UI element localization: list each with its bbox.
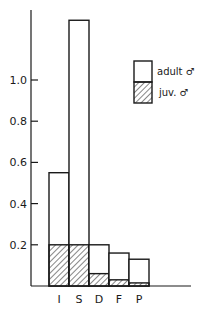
y-tick-label: 0.4 [10,198,28,211]
bar-juv-S [69,245,89,286]
legend: adult ♂ juv. ♂ [134,61,195,103]
legend-adult-label: adult ♂ [157,66,195,77]
bar-juv-F [109,280,129,286]
bar-adult-P [129,259,149,286]
x-category-label: F [116,293,122,306]
legend-juv-label: juv. ♂ [158,87,189,98]
x-category-label: D [95,293,103,306]
bar-juv-P [129,283,149,286]
x-category-label: P [136,293,143,306]
legend-adult-swatch [134,61,152,82]
y-tick-label: 0.2 [10,239,28,252]
y-tick-label: 1.0 [10,74,28,87]
x-category-label: S [76,293,83,306]
x-category-label: I [57,293,60,306]
y-tick-label: 0.6 [10,156,28,169]
y-tick-label: 0.8 [10,115,28,128]
stacked-bar-chart: 0.20.40.60.81.0ISDFP adult ♂ juv. ♂ [0,0,205,311]
legend-juv-swatch [134,82,152,103]
bars [49,20,149,286]
bar-juv-I [49,245,69,286]
bar-juv-D [89,274,109,286]
